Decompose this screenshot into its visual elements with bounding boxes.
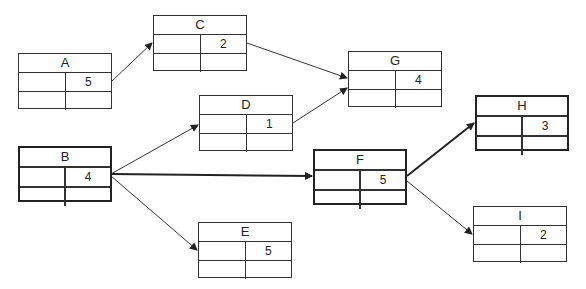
node-h-row-1: 3: [477, 117, 567, 135]
node-g-cell-empty: [349, 71, 395, 89]
node-f-row-2: [315, 189, 405, 209]
edge-b-d: [111, 125, 198, 174]
node-e-cell-empty: [199, 242, 245, 260]
node-e-cell-empty: [245, 261, 292, 279]
node-f-row-1: 5: [315, 171, 405, 189]
node-c-row-1: 2: [154, 35, 246, 53]
edge-f-h: [407, 123, 474, 176]
node-a-cell-empty: [19, 92, 65, 110]
edge-b-e: [111, 176, 197, 250]
node-a-row-1: 5: [19, 73, 111, 91]
node-c-cell-empty: [154, 54, 200, 72]
node-i-title: I: [474, 207, 566, 226]
node-b: B 4: [18, 146, 112, 202]
node-g-row-1: 4: [349, 71, 441, 89]
node-h-duration: 3: [521, 117, 567, 135]
node-e-row-2: [199, 260, 291, 279]
node-e: E 5: [198, 222, 292, 278]
node-d-cell-empty: [200, 115, 246, 133]
node-i-cell-empty: [474, 245, 520, 263]
node-i: I 2: [473, 206, 567, 262]
node-g-cell-empty: [349, 90, 395, 108]
node-c-duration: 2: [200, 35, 247, 53]
edge-b-f: [111, 174, 312, 176]
node-a-cell-empty: [19, 73, 65, 91]
node-a: A 5: [18, 53, 112, 109]
node-h: H 3: [475, 95, 569, 151]
node-b-cell-empty: [64, 188, 110, 206]
node-d-duration: 1: [246, 115, 293, 133]
node-a-title: A: [19, 54, 111, 73]
node-b-cell-empty: [20, 188, 64, 206]
node-f: F 5: [313, 149, 407, 205]
node-e-title: E: [199, 223, 291, 242]
node-i-duration: 2: [520, 226, 567, 244]
node-e-row-1: 5: [199, 242, 291, 260]
node-h-cell-empty: [477, 117, 521, 135]
edge-d-g: [293, 88, 347, 123]
node-g-duration: 4: [395, 71, 442, 89]
node-b-title: B: [20, 148, 110, 168]
node-c: C 2: [153, 15, 247, 71]
node-c-title: C: [154, 16, 246, 35]
node-c-cell-empty: [154, 35, 200, 53]
node-i-cell-empty: [520, 245, 567, 263]
node-i-row-2: [474, 244, 566, 263]
node-h-title: H: [477, 97, 567, 117]
node-d-title: D: [200, 96, 292, 115]
node-f-cell-empty: [315, 191, 359, 209]
node-d-row-2: [200, 133, 292, 152]
node-h-cell-empty: [521, 137, 567, 155]
node-c-row-2: [154, 53, 246, 72]
node-d-row-1: 1: [200, 115, 292, 133]
node-e-cell-empty: [199, 261, 245, 279]
node-h-row-2: [477, 135, 567, 155]
node-b-row-1: 4: [20, 168, 110, 186]
node-g-title: G: [349, 52, 441, 71]
node-d: D 1: [199, 95, 293, 151]
node-a-row-2: [19, 91, 111, 110]
node-f-duration: 5: [359, 171, 405, 189]
node-f-title: F: [315, 151, 405, 171]
edge-f-i: [407, 181, 472, 234]
edge-c-g: [247, 43, 347, 78]
node-i-row-1: 2: [474, 226, 566, 244]
node-g-cell-empty: [395, 90, 442, 108]
node-f-cell-empty: [359, 191, 405, 209]
node-g-row-2: [349, 89, 441, 108]
edge-a-c: [112, 43, 152, 81]
node-b-row-2: [20, 186, 110, 206]
node-d-cell-empty: [246, 134, 293, 152]
node-e-duration: 5: [245, 242, 292, 260]
node-f-cell-empty: [315, 171, 359, 189]
node-d-cell-empty: [200, 134, 246, 152]
node-i-cell-empty: [474, 226, 520, 244]
node-b-cell-empty: [20, 168, 64, 186]
node-g: G 4: [348, 51, 442, 107]
node-c-cell-empty: [200, 54, 247, 72]
node-h-cell-empty: [477, 137, 521, 155]
node-a-cell-empty: [65, 92, 112, 110]
node-b-duration: 4: [64, 168, 110, 186]
node-a-duration: 5: [65, 73, 112, 91]
